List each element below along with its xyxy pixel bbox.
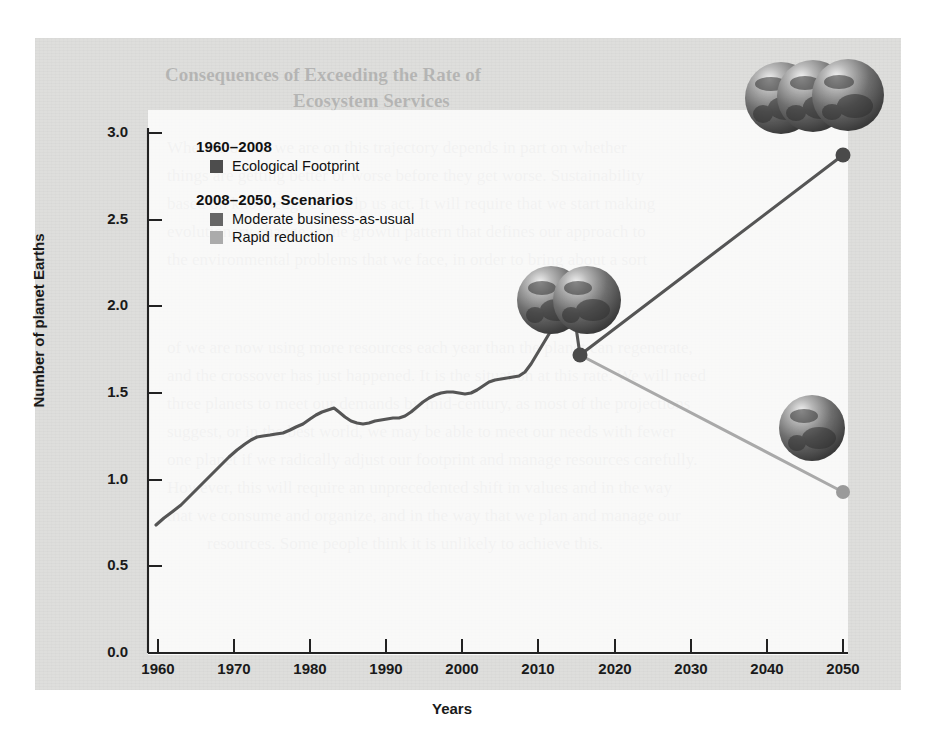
legend-item-label: Moderate business-as-usual	[232, 211, 414, 227]
y-tick-label: 1.5	[82, 383, 128, 400]
legend-item-moderate-business-as-usual: Moderate business-as-usual	[210, 211, 414, 227]
legend-swatch-icon	[210, 231, 223, 244]
x-axis-title: Years	[432, 700, 472, 717]
legend-heading-scenarios: 2008–2050, Scenarios	[196, 191, 414, 208]
legend-item-label: Ecological Footprint	[232, 158, 359, 174]
x-tick-label: 2030	[661, 660, 721, 677]
one-earth-single	[779, 395, 845, 461]
three-earths-cluster	[745, 59, 884, 134]
legend-item-ecological-footprint: Ecological Footprint	[210, 158, 414, 174]
branch-point-marker	[573, 348, 588, 363]
y-tick-label: 0.0	[82, 643, 128, 660]
business-as-usual-endpoint-marker	[836, 148, 851, 163]
x-tick-label: 2010	[508, 660, 568, 677]
y-tick-label: 2.5	[82, 210, 128, 227]
x-tick-label: 2020	[585, 660, 645, 677]
x-tick-label: 1970	[204, 660, 264, 677]
legend-item-label: Rapid reduction	[232, 229, 334, 245]
x-tick-label: 2040	[737, 660, 797, 677]
rapid-reduction-endpoint-marker	[836, 485, 850, 499]
legend-swatch-icon	[210, 213, 223, 226]
y-tick-label: 3.0	[82, 123, 128, 140]
y-tick-label: 1.0	[82, 470, 128, 487]
x-tick-label: 2000	[432, 660, 492, 677]
legend-heading-historical: 1960–2008	[196, 138, 414, 155]
two-earths-cluster	[517, 266, 621, 334]
chart-canvas	[0, 0, 925, 747]
legend-item-rapid-reduction: Rapid reduction	[210, 229, 414, 245]
series-line-moderate-business-as-usual	[580, 155, 843, 355]
legend-swatch-icon	[210, 160, 223, 173]
x-tick-label: 1990	[356, 660, 416, 677]
x-tick-label: 1960	[128, 660, 188, 677]
x-axis-ticks	[158, 639, 843, 653]
chart-figure: Consequences of Exceeding the Rate of Ec…	[0, 0, 925, 747]
y-axis-title: Number of planet Earths	[30, 221, 47, 421]
y-axis-ticks	[148, 133, 162, 653]
x-tick-label: 2050	[813, 660, 873, 677]
y-tick-label: 2.0	[82, 296, 128, 313]
series-line-ecological-footprint	[156, 306, 580, 525]
y-tick-label: 0.5	[82, 556, 128, 573]
x-tick-label: 1980	[280, 660, 340, 677]
chart-legend: 1960–2008 Ecological Footprint 2008–2050…	[196, 138, 414, 247]
